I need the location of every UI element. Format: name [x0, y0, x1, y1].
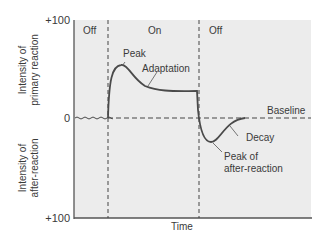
annotation-peak-of: Peak of — [224, 151, 258, 162]
annotation-adaptation: Adaptation — [142, 63, 190, 74]
phase-off-2: Off — [209, 25, 222, 36]
x-axis-label: Time — [171, 221, 193, 232]
ylabel-top-line1: Intensity of — [17, 46, 28, 95]
phase-on: On — [148, 25, 161, 36]
annotation-decay: Decay — [246, 132, 274, 143]
y-tick-bottom: +100 — [45, 212, 70, 224]
plot-area — [74, 20, 311, 218]
phase-off-1: Off — [83, 25, 96, 36]
ylabel-bottom-line2: after-reaction — [29, 139, 40, 198]
baseline-label: Baseline — [267, 105, 306, 116]
annotation-peak: Peak — [123, 48, 147, 59]
annotation-after-reaction: after-reaction — [224, 163, 283, 174]
y-tick-zero: 0 — [64, 112, 70, 124]
chart: +100 0 +100 Intensity of primary reactio… — [0, 0, 324, 241]
ylabel-top-line2: primary reaction — [29, 34, 40, 106]
y-tick-top: +100 — [45, 14, 70, 26]
ylabel-bottom-line1: Intensity of — [17, 144, 28, 193]
